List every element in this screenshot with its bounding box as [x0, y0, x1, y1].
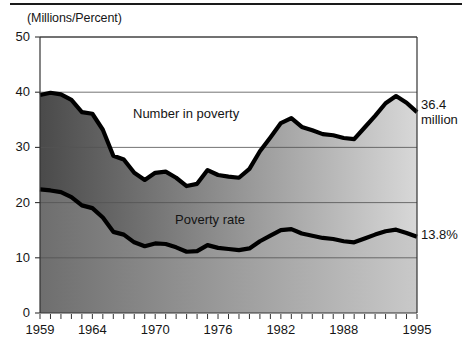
x-tick-label-1976: 1976: [196, 322, 240, 337]
x-tick-label-1982: 1982: [259, 322, 303, 337]
y-tick-label-20: 20: [2, 195, 30, 210]
x-axis-ticks: [40, 314, 417, 319]
y-axis-ticks: [35, 37, 40, 313]
x-tick-label-1970: 1970: [133, 322, 177, 337]
plot-area: [0, 0, 470, 346]
x-tick-label-1988: 1988: [322, 322, 366, 337]
x-tick-label-1959: 1959: [18, 322, 62, 337]
poverty-chart-figure: (Millions/Percent) 01020304050 195919641…: [0, 0, 470, 346]
annotation-number-value: 36.4: [421, 97, 458, 112]
annotation-rate-end-value: 13.8%: [421, 227, 458, 242]
y-tick-label-10: 10: [2, 250, 30, 265]
y-tick-label-30: 30: [2, 139, 30, 154]
y-tick-label-50: 50: [2, 29, 30, 44]
x-tick-label-1964: 1964: [70, 322, 114, 337]
series-label-poverty-rate: Poverty rate: [175, 212, 245, 227]
chart-canvas: [0, 0, 470, 346]
y-tick-label-0: 0: [2, 305, 30, 320]
series-label-number-in-poverty: Number in poverty: [133, 106, 239, 121]
annotation-number-end-value: 36.4 million: [421, 97, 458, 127]
y-tick-label-40: 40: [2, 84, 30, 99]
x-tick-label-1995: 1995: [395, 322, 439, 337]
annotation-number-unit: million: [421, 112, 458, 127]
